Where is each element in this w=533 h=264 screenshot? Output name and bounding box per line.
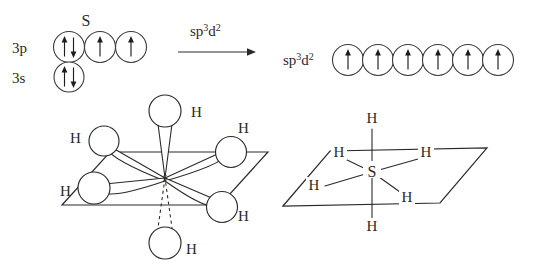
transition-label: sp3d2 (190, 22, 221, 39)
central-atom-sulfur-right: S (368, 163, 377, 180)
orbital-row-3s: 3s (12, 62, 84, 92)
orbital-box-3p-2 (85, 32, 116, 63)
transition-arrow-group: sp3d2 (178, 22, 256, 56)
hybrid-label-sup2: 2 (309, 51, 314, 62)
hydrogen-label-front-right: H (238, 208, 249, 224)
figure-canvas: S 3p (0, 0, 533, 264)
hydrogen-label-eq-back-right: H (421, 144, 432, 160)
orbital-row-label-3s: 3s (12, 70, 26, 86)
hydrogen-sphere-top (149, 95, 181, 127)
hydrogen-sphere-back-right (216, 137, 247, 168)
hydrogen-label-back-right: H (238, 120, 249, 136)
atom-symbol-sulfur: S (82, 12, 91, 29)
hydrogen-label-eq-back-left: H (334, 144, 345, 160)
hydrogen-sphere-front-right (207, 192, 238, 223)
right-arrow-icon (178, 48, 256, 56)
orbital-box-sp3d2-2 (363, 45, 394, 76)
hydrogen-sphere-bottom (149, 227, 181, 259)
hydrogen-sphere-front-left (78, 172, 110, 204)
geometry-diagram: S H H H H H H (283, 110, 487, 234)
chemistry-figure: S 3p (0, 0, 533, 264)
orbital-box-sp3d2-3 (393, 45, 424, 76)
orbital-overlap-diagram: S H H H H H H (60, 95, 268, 259)
transition-label-sup2: 2 (216, 22, 221, 33)
orbital-diagram-after: sp3d2 (283, 45, 514, 76)
hydrogen-label-eq-front-left: H (309, 177, 320, 193)
hybrid-orbital-label: sp3d2 (283, 51, 314, 68)
hybrid-label-sp: sp (283, 52, 296, 68)
hydrogen-label-eq-front-right: H (402, 189, 413, 205)
hydrogen-label-axial-bottom: H (367, 218, 378, 234)
orbital-box-sp3d2-4 (423, 45, 454, 76)
hydrogen-label-bottom: H (186, 241, 197, 257)
central-atom-sulfur-left: S (162, 173, 167, 183)
transition-label-sp: sp (190, 23, 203, 39)
hydrogen-label-top: H (191, 104, 202, 120)
orbital-box-3p-3 (116, 32, 147, 63)
orbital-box-3p-1 (54, 32, 85, 63)
hydrogen-label-axial-top: H (367, 110, 378, 126)
hydrogen-label-front-left: H (60, 183, 71, 199)
orbital-row-3p: 3p (12, 32, 147, 63)
orbital-row-label-3p: 3p (12, 40, 27, 56)
orbital-box-sp3d2-5 (453, 45, 484, 76)
orbital-diagram-before: S 3p (12, 12, 147, 92)
hydrogen-label-back-left: H (70, 130, 81, 146)
orbital-box-3s-1 (54, 62, 84, 92)
orbital-box-sp3d2-1 (333, 45, 364, 76)
orbital-box-sp3d2-6 (483, 45, 514, 76)
hydrogen-sphere-back-left (89, 126, 119, 156)
